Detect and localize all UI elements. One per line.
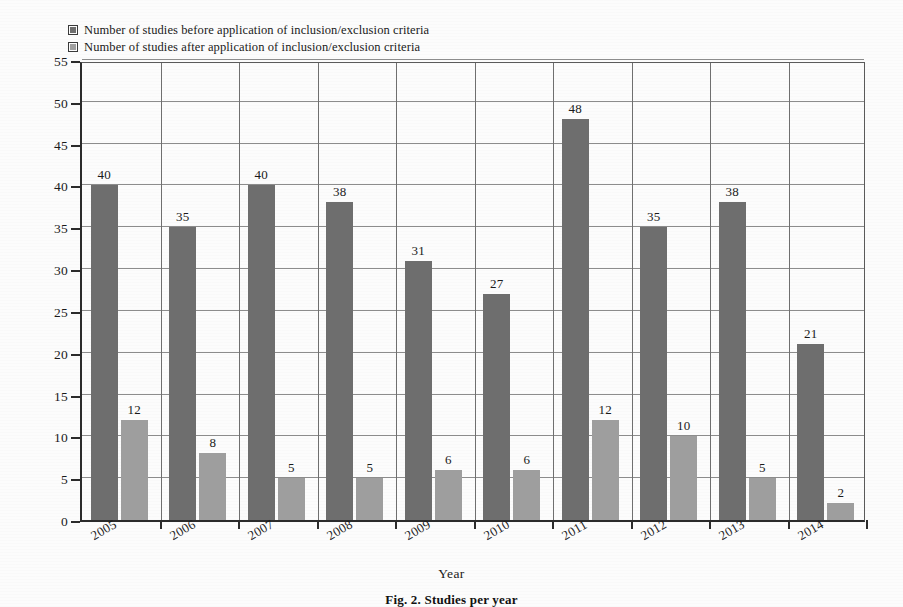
bar-before[interactable]: 40	[248, 185, 275, 520]
bar-value-label: 6	[445, 452, 452, 468]
y-axis-tick-mark	[71, 396, 80, 398]
x-axis-tick-mark	[474, 520, 476, 529]
bar-value-label: 5	[759, 460, 766, 476]
bar-value-label: 5	[288, 460, 295, 476]
bar-value-label: 40	[255, 167, 268, 183]
bar-group: 276	[475, 63, 554, 520]
x-axis-tick-mark	[160, 520, 162, 529]
legend-label-before: Number of studies before application of …	[84, 22, 429, 38]
y-axis-tick-mark	[71, 354, 80, 356]
x-axis-tick-mark	[866, 520, 868, 529]
bar-group: 358	[161, 63, 240, 520]
bar-value-label: 12	[599, 402, 612, 418]
bar-before[interactable]: 21	[797, 344, 824, 520]
x-axis-tick-mark	[552, 520, 554, 529]
bar-before[interactable]: 35	[169, 227, 196, 520]
bar-group: 4812	[553, 63, 632, 520]
x-axis-tick-mark	[709, 520, 711, 529]
y-axis-tick-mark	[71, 270, 80, 272]
bar-group: 316	[396, 63, 475, 520]
y-axis-tick-label: 0	[61, 514, 68, 530]
y-axis-tick-label: 55	[54, 54, 68, 70]
bar-value-label: 10	[677, 418, 690, 434]
bar-value-label: 38	[333, 184, 346, 200]
bar-value-label: 35	[647, 209, 660, 225]
y-axis-tick-mark	[71, 437, 80, 439]
y-axis: 0510152025303540455055	[0, 55, 80, 525]
bar-value-label: 2	[837, 485, 844, 501]
bar-after[interactable]: 8	[199, 453, 226, 520]
y-axis-tick-label: 20	[54, 347, 68, 363]
y-axis-tick-label: 35	[54, 221, 68, 237]
x-axis-tick-mark	[317, 520, 319, 529]
bar-value-label: 21	[804, 326, 817, 342]
y-axis-tick-mark	[71, 312, 80, 314]
bar-before[interactable]: 40	[91, 185, 118, 520]
bar-value-label: 5	[366, 460, 373, 476]
bar-after[interactable]: 2	[827, 503, 854, 520]
legend-entry-before: Number of studies before application of …	[68, 22, 429, 38]
y-axis-tick-label: 25	[54, 305, 68, 321]
bar-after[interactable]: 5	[278, 478, 305, 520]
legend-swatch-before-icon	[68, 25, 78, 35]
legend-swatch-after-icon	[68, 42, 78, 52]
bar-after[interactable]: 12	[592, 420, 619, 520]
bar-after[interactable]: 5	[356, 478, 383, 520]
bar-value-label: 8	[209, 435, 216, 451]
bar-after[interactable]: 12	[121, 420, 148, 520]
bar-value-label: 31	[412, 243, 425, 259]
bar-before[interactable]: 48	[562, 119, 589, 520]
bar-group: 4012	[82, 63, 161, 520]
bar-value-label: 48	[569, 101, 582, 117]
bar-group: 212	[789, 63, 868, 520]
y-axis-tick-mark	[71, 228, 80, 230]
y-axis-tick-label: 15	[54, 389, 68, 405]
y-axis-tick-label: 40	[54, 179, 68, 195]
gridline-horizontal	[82, 59, 864, 60]
y-axis-tick-mark	[71, 521, 80, 523]
bar-group: 405	[239, 63, 318, 520]
y-axis-tick-mark	[71, 479, 80, 481]
bar-value-label: 35	[176, 209, 189, 225]
legend-entry-after: Number of studies after application of i…	[68, 39, 429, 55]
y-axis-tick-mark	[71, 186, 80, 188]
bar-after[interactable]: 6	[513, 470, 540, 520]
bar-before[interactable]: 38	[719, 202, 746, 520]
bar-group: 385	[318, 63, 397, 520]
plot-area: 401235840538531627648123510385212	[80, 62, 865, 522]
bar-value-label: 40	[98, 167, 111, 183]
x-axis-title: Year	[0, 566, 903, 582]
x-axis-tick-mark	[631, 520, 633, 529]
bar-before[interactable]: 27	[483, 294, 510, 520]
figure-caption: Fig. 2. Studies per year	[0, 592, 903, 607]
x-axis-tick-mark	[238, 520, 240, 529]
x-axis-tick-mark	[395, 520, 397, 529]
y-axis-tick-label: 50	[54, 96, 68, 112]
legend-label-after: Number of studies after application of i…	[84, 39, 420, 55]
y-axis-tick-mark	[71, 61, 80, 63]
bar-value-label: 38	[726, 184, 739, 200]
y-axis-tick-mark	[71, 103, 80, 105]
bar-value-label: 6	[523, 452, 530, 468]
chart-legend: Number of studies before application of …	[68, 22, 429, 56]
bar-group: 385	[710, 63, 789, 520]
bar-before[interactable]: 38	[326, 202, 353, 520]
y-axis-tick-label: 45	[54, 138, 68, 154]
y-axis-tick-mark	[71, 145, 80, 147]
bar-value-label: 27	[490, 276, 503, 292]
bar-after[interactable]: 5	[749, 478, 776, 520]
bar-after[interactable]: 10	[670, 436, 697, 520]
y-axis-tick-label: 10	[54, 430, 68, 446]
bar-before[interactable]: 31	[405, 261, 432, 520]
bar-value-label: 12	[128, 402, 141, 418]
bar-group: 3510	[632, 63, 711, 520]
x-axis-tick-mark	[788, 520, 790, 529]
y-axis-tick-label: 5	[61, 472, 68, 488]
bar-after[interactable]: 6	[435, 470, 462, 520]
figure-page: Number of studies before application of …	[0, 0, 903, 607]
y-axis-tick-label: 30	[54, 263, 68, 279]
bar-before[interactable]: 35	[640, 227, 667, 520]
